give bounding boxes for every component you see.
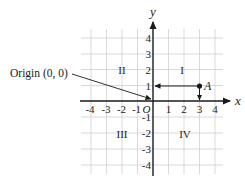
quadrant-label-iv: IV	[179, 128, 191, 140]
point-a-label: A	[203, 79, 212, 93]
y-tick-label: -3	[142, 143, 152, 155]
y-tick-label: -1	[142, 111, 151, 123]
quadrant-label-iii: III	[117, 128, 128, 140]
x-tick-label: 2	[181, 103, 187, 115]
y-tick-label: 2	[146, 64, 152, 76]
x-tick-label: -3	[101, 103, 111, 115]
x-tick-label: -2	[117, 103, 126, 115]
quadrant-label-i: I	[180, 64, 184, 76]
point-a-marker	[197, 83, 202, 88]
y-tick-label: -4	[142, 159, 152, 171]
quadrant-label-ii: II	[118, 64, 126, 76]
x-axis-label: x	[234, 93, 241, 108]
x-tick-label: -4	[85, 103, 95, 115]
origin-callout-text: Origin (0, 0)	[10, 67, 68, 80]
y-tick-label: -2	[142, 127, 151, 139]
x-tick-label: 3	[197, 103, 203, 115]
y-axis-label: y	[148, 4, 156, 19]
x-tick-labels: -4 -3 -2 -1 1 2 3 4	[85, 103, 218, 115]
coordinate-plane: x y -4 -3 -2 -1 1 2 3 4 O 4 3 2 1 -1 -2 …	[0, 0, 245, 180]
x-tick-label: 4	[212, 103, 218, 115]
x-tick-label: 1	[166, 103, 172, 115]
y-tick-label: 4	[146, 32, 152, 44]
y-tick-label: 3	[146, 48, 152, 60]
origin-callout-leader-line	[72, 74, 151, 99]
x-tick-label: -1	[132, 103, 141, 115]
y-tick-label: 1	[146, 80, 152, 92]
